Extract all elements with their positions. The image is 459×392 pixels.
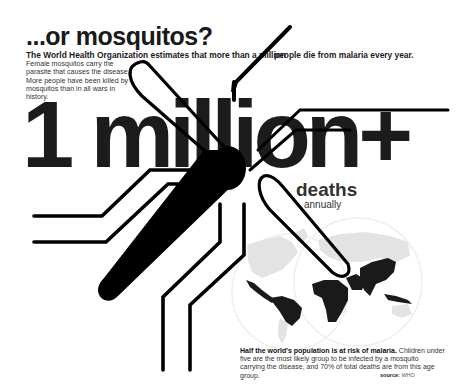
leg-right-middle bbox=[250, 130, 350, 170]
leg-lower-2 bbox=[190, 204, 244, 370]
mosquito-thorax bbox=[210, 146, 246, 190]
source-label: source: bbox=[380, 372, 400, 378]
lower-wing bbox=[259, 176, 349, 277]
source-credit: source: WHO bbox=[380, 372, 415, 378]
antenna-right bbox=[233, 27, 290, 92]
mosquito-illustration bbox=[0, 0, 459, 392]
leg-right-upper bbox=[258, 110, 448, 150]
footnote-bold: Half the world's population is at risk o… bbox=[240, 347, 397, 354]
source-value: WHO bbox=[401, 372, 414, 378]
